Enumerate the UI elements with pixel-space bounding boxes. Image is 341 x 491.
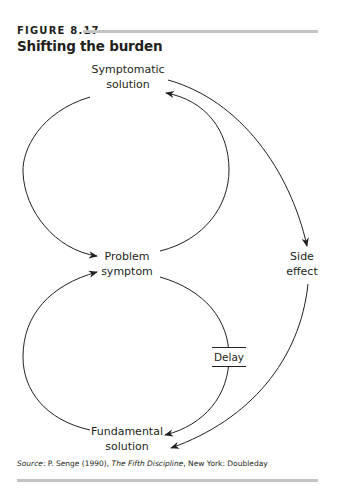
node-symptomatic-solution: Symptomatic solution [88, 62, 168, 92]
source-text-after: , New York: Doubleday [183, 459, 267, 468]
arc-symptomatic-to-problem [23, 97, 97, 256]
source-prefix: Source [17, 459, 43, 468]
arc-problem-to-symptomatic [160, 93, 229, 251]
source-book-title: The Fifth Discipline [112, 459, 184, 468]
node-side-effect: Side effect [282, 249, 322, 279]
delay-marker: Delay [212, 347, 246, 367]
source-citation: Source: P. Senge (1990), The Fifth Disci… [17, 459, 268, 468]
node-problem-symptom-line1: Problem [97, 249, 157, 264]
figure-footer-rule [17, 479, 318, 482]
shifting-the-burden-diagram [0, 0, 341, 491]
node-fundamental-solution-line2: solution [86, 439, 168, 454]
node-problem-symptom: Problem symptom [97, 249, 157, 279]
node-side-effect-line2: effect [282, 264, 322, 279]
arc-fundamental-to-problem [23, 272, 97, 430]
node-side-effect-line1: Side [282, 249, 322, 264]
node-fundamental-solution-line1: Fundamental [86, 424, 168, 439]
node-problem-symptom-line2: symptom [97, 264, 157, 279]
arc-symptomatic-to-side-effect [168, 80, 307, 246]
node-symptomatic-solution-line2: solution [88, 77, 168, 92]
node-symptomatic-solution-line1: Symptomatic [88, 62, 168, 77]
source-text-before: : P. Senge (1990), [43, 459, 112, 468]
node-fundamental-solution: Fundamental solution [86, 424, 168, 454]
